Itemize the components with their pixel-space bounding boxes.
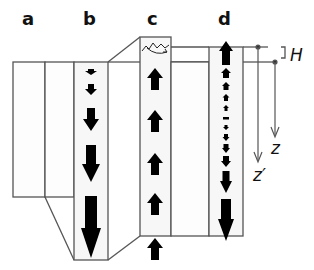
diagram-canvas [0, 0, 314, 270]
connector-a-b [45, 197, 74, 260]
connector-b-c-bottom [108, 236, 140, 260]
connector-b-c-top [108, 37, 140, 62]
frame-lines [13, 37, 285, 260]
zero-flux-dash [223, 117, 229, 120]
panel-cd-gap [171, 62, 209, 236]
arrow-up-icon [147, 238, 163, 260]
panel-a-column-1 [13, 62, 45, 197]
H-bracket [281, 47, 285, 58]
panel-a-column-2 [45, 62, 74, 197]
